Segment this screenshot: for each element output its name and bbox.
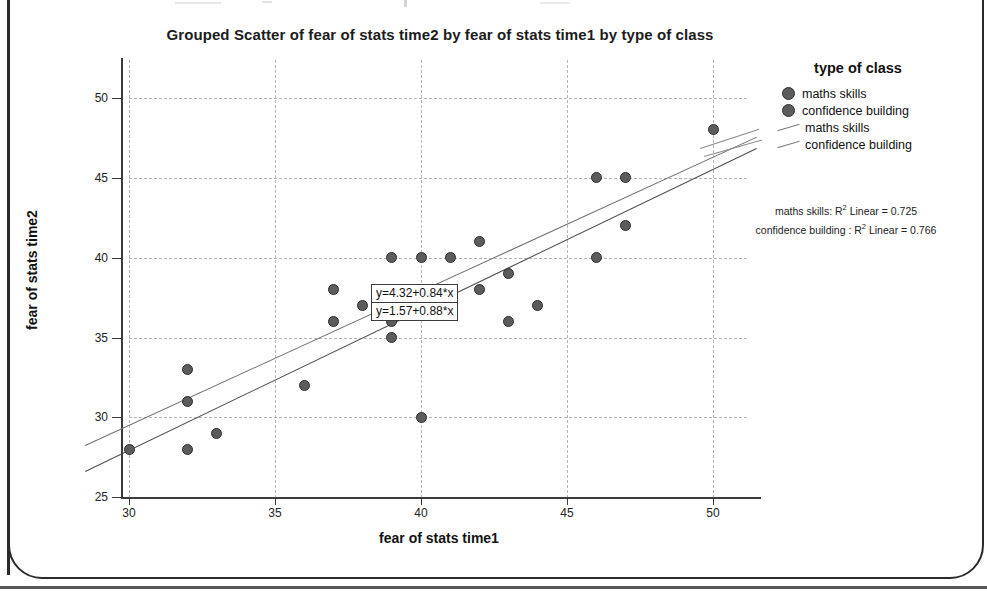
equation-maths-skills: y=4.32+0.84*x (372, 285, 457, 302)
legend-label: confidence building (805, 138, 923, 152)
legend-label: maths skills (802, 87, 920, 101)
scatter-point (445, 252, 456, 263)
legend-label: confidence building (802, 104, 920, 118)
legend-label: maths skills (805, 121, 923, 135)
line-swatch-icon (777, 124, 799, 131)
scatter-point (416, 412, 427, 423)
y-tick-label: 30 (74, 410, 108, 424)
scatter-point (503, 316, 514, 327)
scatter-point (386, 252, 397, 263)
gridline-x-45 (567, 60, 568, 497)
scatter-point (474, 236, 485, 247)
y-tick-label: 40 (74, 251, 108, 265)
y-tick-mark (112, 338, 121, 339)
x-tick-mark (275, 497, 276, 505)
legend-title: type of class (763, 60, 953, 76)
scatter-point (124, 444, 135, 455)
gridline-y-45 (129, 178, 749, 179)
x-tick-label: 40 (401, 506, 441, 520)
y-tick-label: 50 (74, 91, 108, 105)
equation-confidence-building: y=1.57+0.88*x (372, 302, 457, 320)
chart-title: Grouped Scatter of fear of stats time2 b… (0, 26, 880, 43)
scatter-chart: Grouped Scatter of fear of stats time2 b… (0, 0, 987, 598)
x-tick-label: 50 (693, 506, 733, 520)
r-squared-annotations: maths skills: R2 Linear = 0.725 confiden… (712, 200, 980, 237)
x-axis-title: fear of stats time1 (129, 530, 749, 546)
circle-marker-icon (782, 87, 795, 100)
gridline-x-40 (421, 60, 422, 497)
legend: type of class maths skills confidence bu… (757, 60, 977, 153)
scatter-point (328, 316, 339, 327)
gridline-x-30 (129, 60, 130, 497)
y-tick-mark (112, 497, 121, 498)
scatter-point (357, 300, 368, 311)
y-tick-mark (112, 178, 121, 179)
x-tick-mark (129, 497, 130, 505)
scatter-point (474, 284, 485, 295)
scatter-point (620, 220, 631, 231)
legend-item-confidence-building-line[interactable]: confidence building (757, 136, 977, 153)
scatter-point (299, 380, 310, 391)
gridline-y-50 (129, 98, 749, 99)
x-tick-mark (713, 497, 714, 505)
scatter-point (182, 364, 193, 375)
r-squared-confidence-building: confidence building : R2 Linear = 0.766 (712, 219, 980, 238)
y-axis-title: fear of stats time2 (24, 120, 40, 420)
x-tick-label: 45 (547, 506, 587, 520)
legend-item-maths-skills-marker[interactable]: maths skills (757, 85, 977, 102)
circle-marker-icon (782, 104, 795, 117)
legend-entries: maths skills confidence building maths s… (757, 85, 977, 153)
y-axis-line (121, 58, 123, 499)
x-tick-label: 30 (109, 506, 149, 520)
scatter-point (386, 332, 397, 343)
y-tick-mark (112, 258, 121, 259)
x-tick-label: 35 (255, 506, 295, 520)
y-tick-label: 35 (74, 331, 108, 345)
scatter-point (708, 124, 719, 135)
scatter-point (591, 252, 602, 263)
scatter-point (211, 428, 222, 439)
y-tick-mark (112, 98, 121, 99)
gridline-y-30 (129, 417, 749, 418)
scatter-point (182, 444, 193, 455)
legend-item-maths-skills-line[interactable]: maths skills (757, 119, 977, 136)
scatter-point (503, 268, 514, 279)
x-axis-line (121, 497, 761, 499)
legend-item-confidence-building-marker[interactable]: confidence building (757, 102, 977, 119)
x-tick-mark (421, 497, 422, 505)
x-tick-mark (567, 497, 568, 505)
equation-callout-box: y=4.32+0.84*x y=1.57+0.88*x (371, 284, 458, 321)
gridline-y-35 (129, 338, 749, 339)
gridline-x-35 (275, 60, 276, 497)
y-tick-mark (112, 417, 121, 418)
y-tick-label: 25 (74, 490, 108, 504)
scanned-page: Grouped Scatter of fear of stats time2 b… (0, 0, 987, 598)
y-tick-label: 45 (74, 171, 108, 185)
scatter-point (532, 300, 543, 311)
gridline-y-40 (129, 258, 749, 259)
scatter-point (328, 284, 339, 295)
scatter-point (591, 172, 602, 183)
r-squared-maths-skills: maths skills: R2 Linear = 0.725 (712, 200, 980, 219)
scatter-point (620, 172, 631, 183)
scatter-point (182, 396, 193, 407)
line-swatch-icon (777, 141, 799, 148)
scatter-point (416, 252, 427, 263)
